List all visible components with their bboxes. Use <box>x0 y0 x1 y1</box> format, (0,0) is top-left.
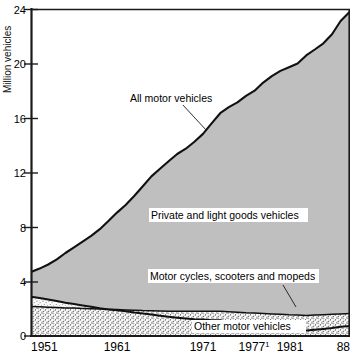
x-tick-label-1961: 1961 <box>104 340 131 354</box>
annotation-motor-cycles-text: Motor cycles, scooters and mopeds <box>150 270 315 282</box>
annotation-private-text: Private and light goods vehicles <box>151 209 299 221</box>
chart-container: 24 20 16 12 8 4 0 Million vehicles 1951 … <box>0 0 362 362</box>
x-tick-label-88: 88 <box>337 340 351 354</box>
y-tick-label: 24 <box>14 4 26 16</box>
y-tick-label: 0 <box>20 330 26 342</box>
x-tick-label-1951: 1951 <box>31 340 58 354</box>
annotation-other-motor-vehicles: Other motor vehicles <box>192 320 306 333</box>
y-tick-label: 16 <box>14 113 26 125</box>
y-axis-title: Million vehicles <box>2 26 13 93</box>
y-tick-label: 8 <box>20 222 26 234</box>
y-tick-label: 20 <box>14 58 26 70</box>
x-axis-tick-labels: 1951 1961 1971 19771 1981 88 <box>31 340 350 354</box>
x-tick-label-1981: 1981 <box>277 340 304 354</box>
motor-vehicles-area-chart: 24 20 16 12 8 4 0 Million vehicles 1951 … <box>0 0 362 362</box>
y-axis-tick-labels: 24 20 16 12 8 4 0 <box>14 4 26 342</box>
y-tick-label: 12 <box>14 167 26 179</box>
x-tick-label-1971: 1971 <box>190 340 217 354</box>
annotation-all-motor-vehicles-text: All motor vehicles <box>130 92 212 104</box>
annotation-private-and-light-goods: Private and light goods vehicles <box>149 208 308 222</box>
y-tick-label: 4 <box>20 276 26 288</box>
annotation-other-text: Other motor vehicles <box>194 320 291 332</box>
x-tick-label-1977: 19771 <box>239 340 270 354</box>
